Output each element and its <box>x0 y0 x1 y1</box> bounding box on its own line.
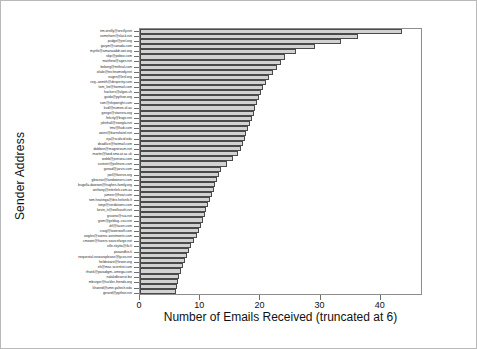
category-label-text: jamesr@freat.com <box>104 193 132 197</box>
category-label-text: pudge@perl.org <box>108 39 132 43</box>
y-tick <box>132 290 139 295</box>
category-label-text: gbocear@landowners.com <box>92 178 132 182</box>
category-label-text: johnhall@swegla.net <box>101 121 132 125</box>
category-label-text: eh@mac.scientist.com <box>98 265 132 269</box>
category-label-text: tom.heatinga@ibis.helsinki.fi <box>89 198 132 202</box>
category-label-text: guido@python.org <box>104 95 132 99</box>
category-label-text: sunnert@pelinore.com <box>98 162 132 166</box>
category-label-text: nalakdlevorut.biz <box>107 275 132 279</box>
category-label-text: eugen@leitl.org <box>108 75 132 79</box>
category-label-text: heldeware@lexon.org <box>99 260 132 264</box>
category-label-text: craig@lowerwolf.com <box>100 229 132 233</box>
category-label-text: oliale@technomedy.net <box>97 70 132 74</box>
category-label-text: webb@pensea.com <box>102 157 132 161</box>
category-label-text: gerard@python.net <box>103 291 132 295</box>
y-axis-category-labels: tim.oreilly@oreilly.netsomehorn@slack.ne… <box>1 28 135 295</box>
category-label-text: nequestal.roszaroplease@lycos.net <box>78 255 132 259</box>
category-label-text: gscono@rua.net <box>107 214 132 218</box>
category-label-text: dobbzin@magnesium.net <box>93 147 132 151</box>
category-label: gerard@python.net <box>1 290 135 295</box>
bar-row <box>140 289 421 294</box>
x-tick-label: 30 <box>315 300 325 310</box>
category-label-text: tom_list@hotmail.com <box>99 85 132 89</box>
category-label-text: anthony@interlink.com.au <box>93 188 132 192</box>
chart-page: Sender Address tim.oreilly@oreilly.netso… <box>0 0 477 349</box>
category-label-text: khanrid@umn.yaltech.edu <box>93 286 132 290</box>
category-label-text: geege@starrera.org <box>102 111 132 115</box>
x-axis-title: Number of Emails Received (truncated at … <box>139 310 422 324</box>
category-label-text: angles@sanniv-westments.com <box>84 234 132 238</box>
category-label-text: garym@canada.com <box>101 44 132 48</box>
plot-area <box>139 28 422 295</box>
category-label-text: hackers@algos.ch <box>104 90 132 94</box>
category-label-text: myrtle@amanaaddr.iant.org <box>90 49 132 53</box>
category-label-text: gonad@jarvis.com <box>104 167 132 171</box>
x-tick-label: 20 <box>254 300 264 310</box>
category-label-text: rfrank@paradigm--omega.com <box>86 270 132 274</box>
category-label-text: drl@lacon.com <box>109 224 132 228</box>
bar-series <box>140 29 421 294</box>
category-label-text: tim.oreilly@oreilly.net <box>100 29 132 33</box>
category-label-text: kvdl@numen.ol.au <box>104 106 132 110</box>
category-label-text: mburger@tuckler-friends.org <box>89 280 132 284</box>
category-label-text: martin@land.smo.at.ac.uk <box>93 152 132 156</box>
category-label-text: tmv@lludi.com <box>110 126 132 130</box>
category-label-text: tonyt@verdations.com <box>98 203 132 207</box>
category-label-text: beberg@mithral.com <box>100 65 132 69</box>
category-label-text: somehorn@slack.net <box>100 34 132 38</box>
category-label-text: felicity@buge.net <box>106 116 132 120</box>
x-tick-label: 10 <box>194 300 204 310</box>
category-label-text: joel@faresis.org <box>107 173 132 177</box>
category-label-text: pasandhis.fi <box>114 250 132 254</box>
category-label-text: matthew@agen.net <box>103 59 132 63</box>
category-label-text: deadlice@hotmail.com <box>98 142 132 146</box>
category-label-text: owen@barnshotel.net <box>99 131 132 135</box>
category-label-text: cmxwin@fivzers.sourcefarge.net <box>83 239 132 243</box>
x-tick-label: 40 <box>375 300 385 310</box>
category-label-text: ceg.-asmith@desperity.com <box>90 80 132 84</box>
category-label-text: skip@pobox.com <box>106 54 132 58</box>
category-label-text: ram@shipwright.com <box>100 101 132 105</box>
bar <box>140 289 176 294</box>
y-axis-ticks <box>132 28 139 295</box>
category-label-text: gsim@geblog-.cou.net <box>98 219 132 223</box>
category-label-text: bugolla-dawson@hughes-family.org <box>78 183 132 187</box>
category-label-text: eja@scalicid.edu <box>106 137 132 141</box>
x-tick-label: 0 <box>136 300 141 310</box>
category-label-text: ville.skytta@iki.fi <box>107 244 132 248</box>
category-label-text: kevin_tr@wellsouth.net <box>97 208 132 212</box>
